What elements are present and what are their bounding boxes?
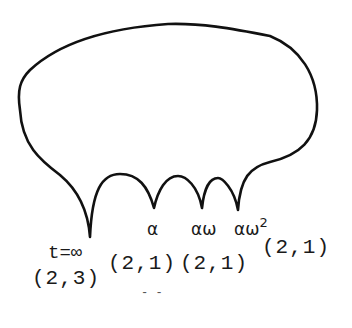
curve-path (19, 24, 317, 237)
footer-mark: - - (141, 286, 163, 300)
cusp-label-t-infinity: t=∞ (48, 244, 82, 263)
cusp-type-alpha-omega: (2,1) (180, 253, 248, 274)
exponent: 2 (259, 215, 267, 230)
cusp-label-alpha: α (147, 221, 158, 238)
cusp-type-2-3: (2,3) (32, 268, 100, 289)
cusp-label-alpha-omega-squared: αω2 (234, 216, 268, 238)
cusp-label-text: αω (234, 219, 259, 239)
cusp-label-alpha-omega: αω (191, 221, 216, 238)
diagram-canvas: α αω αω2 t=∞ (2,3) (2,1) (2,1) (2,1) - - (0, 0, 352, 328)
cusp-type-alpha: (2,1) (108, 253, 176, 274)
cusp-type-alpha-omega-squared: (2,1) (262, 237, 330, 258)
